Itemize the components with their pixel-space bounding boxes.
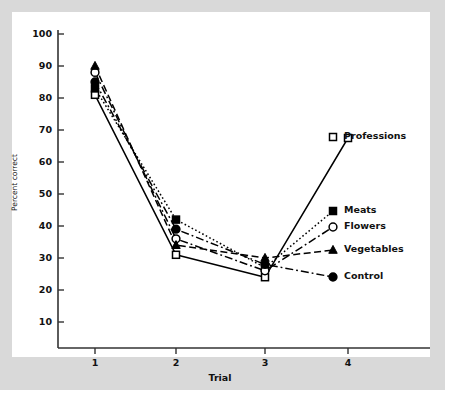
legend-label-control: Control — [344, 270, 383, 281]
filled-square-marker — [173, 216, 180, 223]
y-tick-label: 60 — [26, 156, 52, 167]
chart-figure: 102030405060708090100 1234 Percent corre… — [0, 0, 455, 403]
x-tick-label: 2 — [166, 357, 186, 368]
y-tick-label: 80 — [26, 92, 52, 103]
open-circle-marker — [329, 223, 337, 231]
series-points-flowers — [91, 69, 269, 275]
series-points-meats — [92, 85, 269, 271]
series-line-control — [95, 82, 333, 277]
line-chart-plot — [0, 0, 455, 403]
legend-label-vegetables: Vegetables — [344, 243, 404, 254]
legend-label-meats: Meats — [344, 204, 377, 215]
y-tick-label: 40 — [26, 220, 52, 231]
series-line-vegetables — [95, 66, 333, 258]
filled-circle-marker — [91, 78, 99, 86]
series-line-meats — [95, 88, 333, 267]
y-tick-label: 90 — [26, 60, 52, 71]
y-tick-label: 100 — [26, 28, 52, 39]
y-tick-label: 20 — [26, 284, 52, 295]
x-tick-label: 1 — [85, 357, 105, 368]
x-axis-ticks — [95, 348, 348, 354]
filled-circle-marker — [329, 273, 337, 281]
legend-markers-group — [329, 134, 337, 281]
y-tick-label: 70 — [26, 124, 52, 135]
x-tick-label: 3 — [255, 357, 275, 368]
open-square-marker — [173, 251, 180, 258]
y-axis-ticks — [58, 34, 64, 322]
filled-circle-marker — [261, 261, 269, 269]
filled-triangle-marker — [329, 245, 337, 253]
series-line-professions — [95, 95, 348, 277]
x-axis-title: Trial — [160, 372, 280, 383]
x-tick-label: 4 — [338, 357, 358, 368]
filled-square-marker — [330, 208, 337, 215]
y-tick-label: 30 — [26, 252, 52, 263]
axes-spines — [58, 30, 430, 348]
open-square-marker — [330, 134, 337, 141]
y-tick-label: 10 — [26, 316, 52, 327]
legend-label-professions: Professions — [344, 130, 406, 141]
y-tick-label: 50 — [26, 188, 52, 199]
filled-triangle-marker — [91, 61, 99, 69]
y-axis-title: Percent correct — [10, 143, 19, 223]
legend-label-flowers: Flowers — [344, 220, 386, 231]
series-lines-group — [95, 66, 348, 277]
filled-circle-marker — [172, 225, 180, 233]
